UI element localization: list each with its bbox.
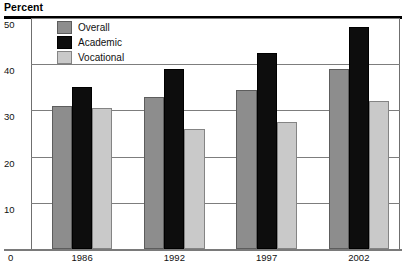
- bar-academic-1997: [257, 53, 277, 249]
- legend-swatch-academic-icon: [57, 36, 72, 49]
- bar-overall-1986: [52, 106, 72, 249]
- legend-item-vocational: Vocational: [57, 50, 124, 65]
- y-tick-label-50: 50: [4, 20, 15, 30]
- y-tick-label-10: 10: [4, 205, 15, 215]
- x-tick-label-1986: 1986: [42, 252, 123, 263]
- legend-label-overall: Overall: [78, 22, 110, 34]
- bar-overall-1992: [144, 97, 164, 249]
- bar-academic-2002: [349, 27, 369, 249]
- bar-overall-2002: [329, 69, 349, 249]
- bar-vocational-1986: [92, 108, 112, 249]
- page-title: Percent: [4, 1, 43, 13]
- chart-figure: Percent 1020304050 0 1986199219972002 Ov…: [0, 0, 410, 272]
- bar-academic-1992: [164, 69, 184, 249]
- legend-item-overall: Overall: [57, 20, 124, 35]
- x-tick-label-1992: 1992: [134, 252, 215, 263]
- legend-label-academic: Academic: [78, 37, 122, 49]
- bar-vocational-2002: [369, 101, 389, 249]
- bar-vocational-1997: [277, 122, 297, 249]
- bar-vocational-1992: [184, 129, 204, 249]
- x-axis-baseline: [4, 249, 402, 251]
- y-tick-label-20: 20: [4, 159, 15, 169]
- y-tick-label-40: 40: [4, 66, 15, 76]
- legend-item-academic: Academic: [57, 35, 124, 50]
- legend: OverallAcademicVocational: [57, 20, 124, 65]
- x-tick-label-1997: 1997: [226, 252, 307, 263]
- y-tick-label-30: 30: [4, 112, 15, 122]
- legend-label-vocational: Vocational: [78, 52, 124, 64]
- legend-swatch-overall-icon: [57, 21, 72, 34]
- bar-academic-1986: [72, 87, 92, 249]
- x-tick-label-2002: 2002: [319, 252, 400, 263]
- y-axis-zero-label: 0: [8, 252, 13, 263]
- bar-overall-1997: [236, 90, 256, 249]
- legend-swatch-vocational-icon: [57, 51, 72, 64]
